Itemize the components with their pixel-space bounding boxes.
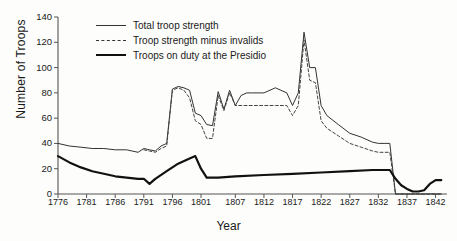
troop-strength-line-chart: Number of Troops Year 020406080100120140…: [0, 0, 457, 241]
legend-item-minus-invalids: Troop strength minus invalids: [96, 33, 266, 48]
legend-swatch-bold-line-icon: [96, 51, 126, 61]
legend-swatch-dashed-line-icon: [96, 36, 126, 46]
data-series-line: [58, 156, 441, 191]
chart-legend: Total troop strength Troop strength minu…: [96, 18, 266, 63]
legend-label: Troops on duty at the Presidio: [133, 50, 266, 61]
legend-item-total-troop-strength: Total troop strength: [96, 18, 266, 33]
legend-label: Total troop strength: [133, 20, 219, 31]
legend-label: Troop strength minus invalids: [133, 35, 263, 46]
legend-item-presidio-duty: Troops on duty at the Presidio: [96, 48, 266, 63]
legend-swatch-solid-line-icon: [96, 21, 126, 31]
